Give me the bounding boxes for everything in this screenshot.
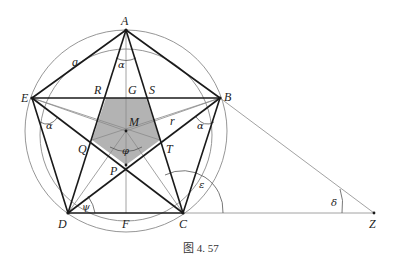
label-T: T — [166, 142, 174, 156]
label-psi: ψ — [82, 201, 90, 212]
label-C: C — [179, 217, 188, 231]
label-delta: δ — [331, 197, 337, 208]
label-P: P — [109, 164, 118, 178]
label-F: F — [121, 217, 130, 231]
label-B: B — [224, 90, 232, 104]
label-alpha-right: α — [197, 120, 204, 131]
label-R: R — [93, 83, 102, 97]
label-alpha-top: α — [118, 59, 125, 70]
label-A: A — [120, 14, 129, 28]
label-E: E — [20, 91, 29, 105]
label-Q: Q — [78, 142, 87, 156]
label-alpha-left: α — [46, 120, 53, 131]
label-M: M — [128, 115, 140, 129]
label-phi: φ — [122, 145, 129, 156]
angle-arcs — [40, 58, 343, 213]
label-radius-r: r — [170, 114, 175, 128]
label-epsilon: ε — [199, 179, 204, 190]
figure-caption: 图 4. 57 — [183, 242, 219, 254]
label-S: S — [149, 83, 155, 97]
label-Z: Z — [369, 217, 376, 231]
label-G: G — [128, 83, 137, 97]
label-D: D — [57, 217, 67, 231]
label-side-a: a — [72, 55, 78, 69]
pentagram-diagram: A B C D E F G M P Q R S T Z a r α α α φ … — [0, 0, 403, 268]
